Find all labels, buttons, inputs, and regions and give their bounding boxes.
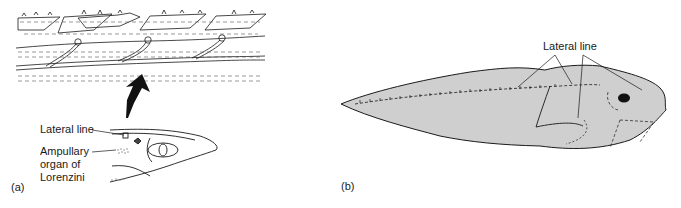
panel-label-b: (b) [341, 180, 354, 192]
label-ampullary-line1: Ampullary [40, 145, 89, 158]
skin-section-illustration [16, 10, 266, 70]
label-ampullary-line2: organ of [40, 158, 80, 171]
magnify-arrow-icon [126, 74, 150, 118]
tissue-texture [18, 22, 262, 81]
label-ampullary-line3: Lorenzini [40, 171, 85, 184]
panel-label-a: (a) [11, 181, 24, 193]
label-lateral-line-a: Lateral line [40, 123, 94, 136]
fish-body-illustration [341, 65, 666, 148]
label-lateral-line-b: Lateral line [543, 40, 597, 53]
diagram-canvas [0, 0, 681, 208]
ampullary-pores [111, 148, 128, 180]
shark-head-illustration [110, 129, 217, 182]
